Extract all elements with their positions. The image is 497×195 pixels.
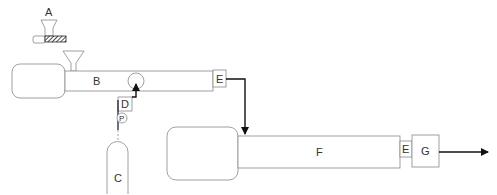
extruder-f: F E G — [167, 127, 488, 180]
label-g: G — [421, 145, 430, 157]
feeder-hopper — [41, 20, 57, 36]
feeder-motor — [33, 36, 45, 43]
transfer-arrow — [226, 79, 245, 134]
process-diagram: A B E D P C F E G — [0, 0, 497, 194]
label-f: F — [316, 146, 323, 158]
feeder-screw — [45, 36, 66, 42]
gas-injection: D P C — [107, 84, 136, 194]
label-a: A — [45, 6, 53, 18]
extruder-b: B E — [12, 51, 226, 98]
label-p: P — [119, 114, 124, 123]
label-e2: E — [402, 143, 409, 155]
label-d: D — [121, 98, 129, 110]
label-e1: E — [216, 73, 223, 85]
gas-cylinder-c — [107, 142, 128, 195]
motor-2 — [167, 127, 238, 180]
label-c: C — [114, 172, 122, 184]
main-hopper — [63, 51, 84, 71]
label-b: B — [93, 75, 100, 87]
feeder-a: A — [33, 6, 66, 43]
motor-1 — [12, 64, 65, 98]
